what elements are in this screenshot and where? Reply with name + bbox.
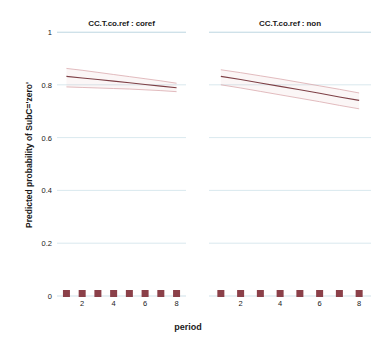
rug-mark: [110, 290, 117, 297]
y-tick-label: 0.8: [30, 80, 52, 89]
x-tick-label: 8: [174, 299, 178, 308]
panel-non: [209, 32, 371, 296]
effects-plot-figure: Predicted probability of SubC='zero' per…: [0, 0, 376, 342]
rug-mark: [217, 290, 224, 297]
panel-canvas: [57, 32, 186, 296]
x-tick-label: 4: [278, 299, 282, 308]
rug-mark: [173, 290, 180, 297]
panel-strip-non: CC.T.co.ref : non: [209, 14, 371, 33]
rug-mark: [277, 290, 284, 297]
y-tick-label: 0.4: [30, 186, 52, 195]
rug-mark: [94, 290, 101, 297]
panel-canvas: [209, 32, 371, 296]
y-tick-label: 1: [30, 28, 52, 37]
rug-mark: [237, 290, 244, 297]
rug-mark: [63, 290, 70, 297]
x-tick-label: 6: [318, 299, 322, 308]
panel-coref: [57, 32, 186, 296]
confidence-band: [66, 68, 176, 91]
x-tick-label: 2: [80, 299, 84, 308]
strip-label-coref: CC.T.co.ref : coref: [88, 19, 155, 28]
rug-mark: [126, 290, 133, 297]
x-tick-label: 8: [357, 299, 361, 308]
rug-mark: [316, 290, 323, 297]
rug-mark: [356, 290, 363, 297]
rug-mark: [142, 290, 149, 297]
x-tick-label: 6: [143, 299, 147, 308]
rug-mark: [336, 290, 343, 297]
rug-mark: [257, 290, 264, 297]
x-tick-label: 4: [112, 299, 116, 308]
x-tick-label: 2: [239, 299, 243, 308]
rug-mark: [79, 290, 86, 297]
rug-mark: [296, 290, 303, 297]
strip-label-non: CC.T.co.ref : non: [259, 19, 321, 28]
panel-strip-coref: CC.T.co.ref : coref: [57, 14, 186, 33]
y-tick-label: 0.6: [30, 133, 52, 142]
y-tick-label: 0.2: [30, 239, 52, 248]
y-tick-label: 0: [30, 292, 52, 301]
x-axis-label: period: [0, 322, 376, 332]
rug-mark: [157, 290, 164, 297]
